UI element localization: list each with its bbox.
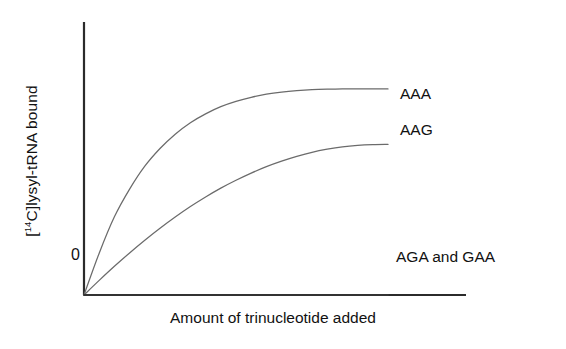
series-label-aag: AAG <box>400 121 433 139</box>
y-axis-label-suffix: C]lysyl-tRNA bound <box>23 85 40 221</box>
y-axis-label-prefix: [ <box>23 232 40 236</box>
y-axis-origin-tick: 0 <box>58 246 80 264</box>
y-axis-label: [14C]lysyl-tRNA bound <box>23 31 41 291</box>
plot-area <box>0 0 566 349</box>
series-label-aga-and-gaa: AGA and GAA <box>396 248 495 266</box>
series-curve-aag <box>84 144 388 295</box>
y-axis-label-superscript: 14 <box>22 222 33 233</box>
x-axis-label: Amount of trinucleotide added <box>78 309 468 327</box>
figure-container: [14C]lysyl-tRNA bound 0 AAA AAG AGA and … <box>0 0 566 349</box>
series-label-aaa: AAA <box>400 85 431 103</box>
series-curve-aaa <box>84 89 388 295</box>
series-layer <box>84 89 388 295</box>
